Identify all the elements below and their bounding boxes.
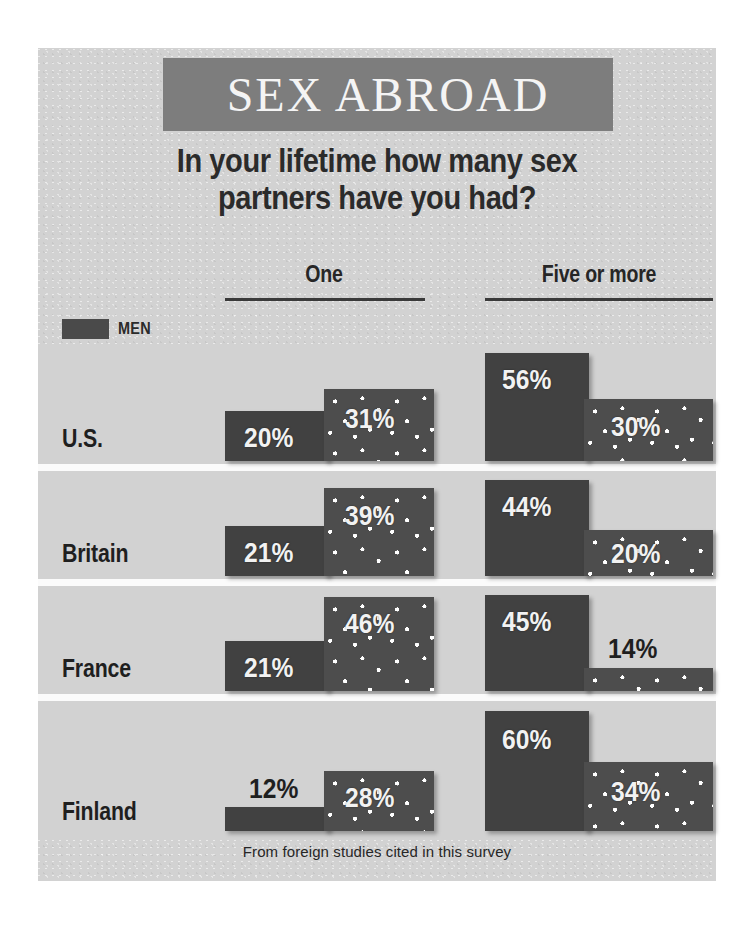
value-finland-five-men: 60%: [502, 724, 551, 756]
legend-item-men: MEN: [62, 316, 187, 341]
country-label-finland: Finland: [62, 796, 137, 827]
legend-label-men: MEN: [118, 319, 151, 339]
value-britain-five-men: 44%: [502, 491, 551, 523]
country-label-us: U.S.: [62, 423, 103, 454]
value-britain-one-women: 39%: [345, 500, 394, 532]
value-france-one-women: 46%: [345, 608, 394, 640]
value-finland-one-women: 28%: [345, 782, 394, 814]
source-note: From foreign studies cited in this surve…: [38, 843, 716, 860]
value-finland-five-women: 34%: [611, 776, 660, 808]
men-swatch-icon: [62, 319, 109, 339]
title-banner: SEX ABROAD: [163, 58, 613, 131]
question-subtitle: In your lifetime how many sex partners h…: [79, 143, 676, 217]
row-separator: [38, 579, 716, 586]
value-us-one-men: 20%: [244, 422, 293, 454]
value-france-one-men: 21%: [244, 652, 293, 684]
value-britain-five-women: 20%: [611, 538, 660, 570]
column-rule-one: [225, 298, 425, 301]
bar-finland-one-men: [225, 807, 329, 831]
row-separator: [38, 464, 716, 471]
value-us-one-women: 31%: [345, 403, 394, 435]
value-us-five-women: 30%: [611, 411, 660, 443]
page-title: SEX ABROAD: [227, 71, 550, 119]
value-france-five-women: 14%: [608, 633, 657, 665]
subtitle-line-2: partners have you had?: [79, 180, 676, 217]
column-header-one: One: [239, 261, 409, 288]
value-britain-one-men: 21%: [244, 537, 293, 569]
bar-france-five-women: [584, 668, 713, 691]
subtitle-line-1: In your lifetime how many sex: [79, 143, 676, 180]
column-rule-five-or-more: [485, 298, 713, 301]
row-separator: [38, 694, 716, 701]
value-finland-one-men: 12%: [249, 773, 298, 805]
column-header-five-or-more: Five or more: [502, 261, 696, 288]
country-label-britain: Britain: [62, 538, 128, 569]
country-label-france: France: [62, 653, 131, 684]
infographic-panel: SEX ABROAD In your lifetime how many sex…: [38, 48, 716, 881]
value-us-five-men: 56%: [502, 364, 551, 396]
value-france-five-men: 45%: [502, 606, 551, 638]
